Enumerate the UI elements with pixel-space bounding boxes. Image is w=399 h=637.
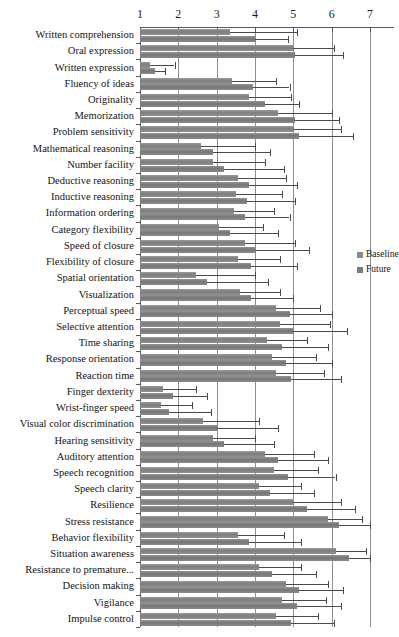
error-bar-cap [290, 214, 291, 221]
error-bar-line [276, 308, 320, 309]
error-bar-cap [316, 571, 317, 578]
error-bar-line [349, 558, 370, 559]
bar-future [140, 425, 217, 431]
error-bar-line [270, 493, 314, 494]
error-bar-cap [293, 295, 294, 302]
legend: Baseline Future [357, 247, 399, 277]
category-axis-tick [136, 351, 140, 352]
error-bar-line [336, 551, 367, 552]
x-tick-label-7: 7 [367, 7, 373, 22]
category-axis-tick [136, 157, 140, 158]
bar-baseline [140, 143, 201, 149]
category-axis-tick [136, 384, 140, 385]
category-label: Selective attention [56, 321, 134, 332]
error-bar-cap [297, 263, 298, 270]
error-bar-cap [255, 143, 256, 150]
error-bar-line [213, 152, 271, 153]
error-bar-cap [280, 256, 281, 263]
bar-baseline [140, 386, 163, 392]
error-bar-line [272, 574, 316, 575]
error-bar-line [290, 314, 332, 315]
category-axis-tick [136, 173, 140, 174]
category-axis-tick [136, 627, 140, 628]
category-axis-tick [136, 513, 140, 514]
category-label: Vigilance [94, 597, 134, 608]
error-bar-line [240, 292, 280, 293]
category-axis-tick [136, 368, 140, 369]
legend-item-baseline: Baseline [357, 247, 399, 262]
error-bar-line [276, 616, 318, 617]
error-bar-line [203, 421, 259, 422]
error-bar-cap [288, 36, 289, 43]
error-bar-cap [330, 321, 331, 328]
error-bar-line [207, 282, 268, 283]
error-bar-cap [366, 548, 367, 555]
error-bar-line [282, 600, 326, 601]
error-bar-line [274, 470, 318, 471]
error-bar-cap [278, 230, 279, 237]
category-axis-tick [136, 546, 140, 547]
error-bar-cap [314, 490, 315, 497]
bar-future [140, 457, 278, 463]
error-bar-line [238, 178, 286, 179]
category-label: Response orientation [46, 353, 134, 364]
error-bar-cap [282, 191, 283, 198]
category-label: Memorization [75, 110, 134, 121]
error-bar-cap [274, 441, 275, 448]
error-bar-cap [297, 182, 298, 189]
bar-future [140, 539, 249, 545]
bar-future [140, 344, 282, 350]
error-bar-cap [290, 84, 291, 91]
bar-baseline [140, 354, 272, 360]
error-bar-line [201, 146, 255, 147]
bar-future [140, 522, 339, 528]
category-label: Spatial orientation [57, 272, 134, 283]
error-bar-cap [347, 328, 348, 335]
error-bar-cap [343, 52, 344, 59]
error-bar-line [169, 412, 211, 413]
bar-future [140, 279, 207, 285]
error-bar-cap [328, 581, 329, 588]
error-bar-line [249, 97, 291, 98]
error-bar-cap [274, 208, 275, 215]
bar-baseline [140, 29, 230, 35]
category-axis-tick [136, 270, 140, 271]
x-tick-mark-7 [370, 27, 371, 32]
error-bar-cap [341, 499, 342, 506]
bar-baseline [140, 78, 232, 84]
error-bar-cap [341, 603, 342, 610]
bar-future [140, 620, 291, 626]
error-bar-cap [192, 402, 193, 409]
legend-swatch-baseline-icon [357, 252, 363, 258]
error-bar-line [282, 347, 328, 348]
bar-baseline [140, 110, 278, 116]
bar-future [140, 214, 245, 220]
bar-baseline [140, 256, 238, 262]
error-bar-line [150, 65, 175, 66]
error-bar-cap [339, 117, 340, 124]
category-axis-tick [136, 189, 140, 190]
error-bar-line [249, 185, 297, 186]
category-axis-tick [136, 76, 140, 77]
bar-baseline [140, 272, 196, 278]
category-axis-tick [136, 416, 140, 417]
error-bar-cap [175, 62, 176, 69]
error-bar-line [299, 136, 353, 137]
error-bar-line [251, 298, 293, 299]
error-bar-line [299, 590, 343, 591]
bar-baseline [140, 467, 274, 473]
category-label: Written expression [55, 62, 134, 73]
category-label: Situation awareness [50, 548, 134, 559]
category-axis-tick [136, 595, 140, 596]
x-tick-label-4: 4 [252, 7, 258, 22]
bar-baseline [140, 451, 265, 457]
error-bar-cap [284, 532, 285, 539]
bar-future [140, 247, 255, 253]
bar-baseline [140, 370, 276, 376]
bar-baseline [140, 62, 150, 68]
error-bar-line [236, 194, 282, 195]
bar-baseline [140, 224, 219, 230]
bar-future [140, 198, 247, 204]
bar-future [140, 166, 224, 172]
error-bar-line [255, 250, 309, 251]
